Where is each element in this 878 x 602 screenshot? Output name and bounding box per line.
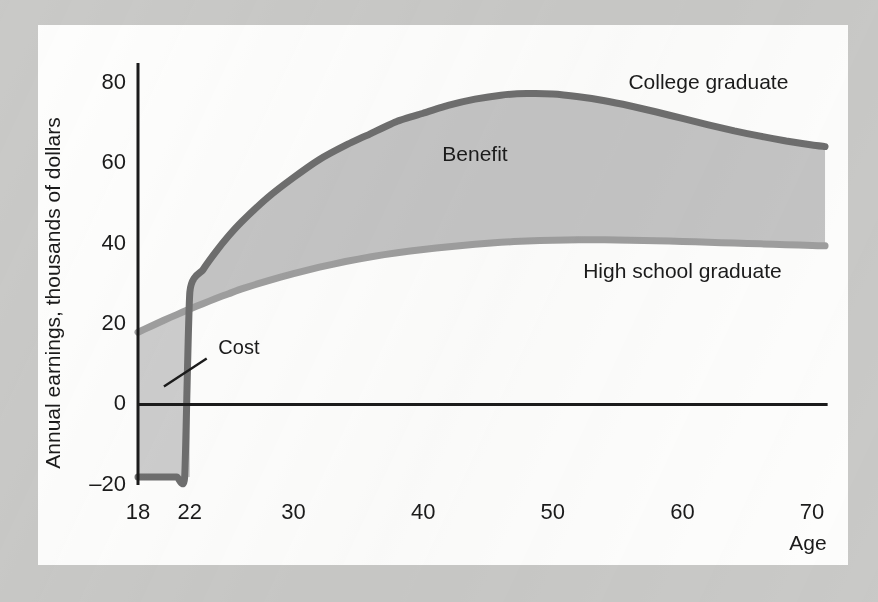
x-tick-label: 40 — [411, 499, 435, 524]
college-graduate-label: College graduate — [628, 70, 788, 93]
x-tick-labels: 18223040506070 — [126, 499, 825, 524]
y-tick-label: 0 — [114, 390, 126, 415]
cost-label: Cost — [218, 336, 260, 358]
y-tick-label: 20 — [102, 310, 126, 335]
y-tick-label: 40 — [102, 230, 126, 255]
figure-root: –20020406080 18223040506070 Cost Benefit… — [0, 0, 878, 602]
x-axis-title: Age — [789, 531, 826, 554]
benefit-label: Benefit — [442, 142, 508, 165]
x-tick-label: 22 — [178, 499, 202, 524]
x-tick-label: 70 — [800, 499, 824, 524]
y-axis-title: Annual earnings, thousands of dollars — [41, 117, 64, 468]
y-tick-label: 60 — [102, 149, 126, 174]
x-tick-label: 50 — [541, 499, 565, 524]
earnings-profile-chart: –20020406080 18223040506070 Cost Benefit… — [38, 25, 848, 565]
x-tick-label: 60 — [670, 499, 694, 524]
x-tick-label: 18 — [126, 499, 150, 524]
y-tick-label: 80 — [102, 69, 126, 94]
chart-panel: –20020406080 18223040506070 Cost Benefit… — [38, 25, 848, 565]
x-tick-label: 30 — [281, 499, 305, 524]
y-tick-labels: –20020406080 — [89, 69, 126, 496]
y-tick-label: –20 — [89, 471, 126, 496]
high-school-graduate-label: High school graduate — [583, 259, 781, 282]
